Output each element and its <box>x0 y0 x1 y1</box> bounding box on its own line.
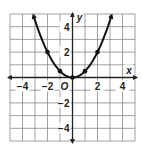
y-tick-label: 2 <box>64 47 70 58</box>
y-tick-label: 4 <box>64 22 70 33</box>
data-point <box>95 50 100 55</box>
y-tick-label: −2 <box>58 98 70 109</box>
x-tick-label: −4 <box>17 81 29 92</box>
data-point <box>83 69 88 74</box>
data-point <box>70 75 75 80</box>
data-point <box>58 69 63 74</box>
y-axis-up-arrow-icon <box>70 12 75 17</box>
data-point <box>45 50 50 55</box>
x-axis-left-arrow-icon <box>7 75 12 80</box>
x-tick-label: 4 <box>120 81 126 92</box>
x-tick-label: 2 <box>95 81 101 92</box>
y-axis-label: y <box>76 12 83 23</box>
y-axis-down-arrow-icon <box>70 139 75 144</box>
origin-label: O <box>61 81 69 92</box>
parabola-graph: −4−22442−2−4Oyx <box>0 0 142 150</box>
x-tick-label: −2 <box>42 81 54 92</box>
x-axis-label: x <box>125 65 132 76</box>
x-axis-right-arrow-icon <box>133 75 138 80</box>
y-tick-label: −4 <box>58 123 70 134</box>
